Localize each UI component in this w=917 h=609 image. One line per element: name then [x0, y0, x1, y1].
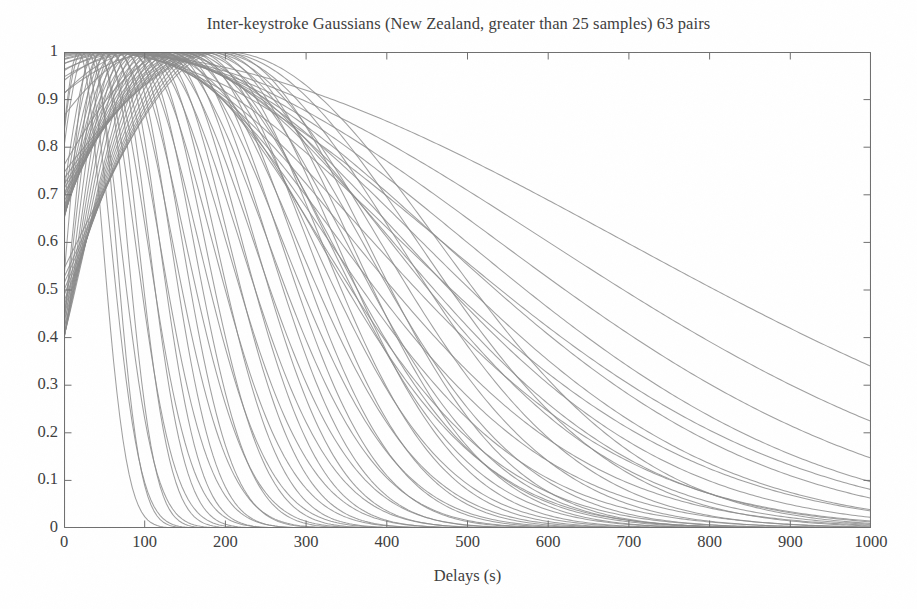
gaussian-curve [64, 52, 871, 528]
y-tick-label: 0.9 [6, 91, 58, 108]
y-tick-label: 0.1 [6, 471, 58, 488]
gaussian-curve [64, 52, 871, 528]
axes-frame [65, 53, 871, 528]
gaussian-curve [64, 52, 871, 527]
gaussian-curve [64, 52, 871, 528]
gaussian-curve [64, 52, 871, 528]
gaussian-curve [64, 52, 871, 528]
chart-title: Inter-keystroke Gaussians (New Zealand, … [0, 14, 917, 34]
y-tick-label: 0.6 [6, 233, 58, 250]
x-tick-label: 400 [347, 534, 427, 551]
gaussian-curve [64, 52, 871, 528]
gaussian-curve [64, 53, 871, 528]
gaussian-curve [64, 52, 871, 528]
gaussian-curve [64, 52, 871, 528]
gaussian-curve [64, 52, 871, 528]
x-tick-label: 100 [105, 534, 185, 551]
gaussian-curve [64, 52, 871, 517]
gaussian-curve [64, 52, 871, 526]
gaussian-curve [64, 53, 871, 528]
gaussian-curve [64, 52, 871, 528]
y-tick-label: 1 [6, 43, 58, 60]
gaussian-curve [64, 52, 871, 498]
x-tick-label: 0 [24, 534, 104, 551]
x-tick-label: 900 [750, 534, 830, 551]
gaussian-curve [64, 52, 871, 528]
y-tick-label: 0.2 [6, 424, 58, 441]
x-axis-tick-labels: 01002003004005006007008009001000 [64, 534, 871, 558]
gaussian-curve [64, 52, 871, 421]
gaussian-curve [64, 52, 871, 366]
gaussian-curve [64, 52, 871, 528]
gaussian-curve [64, 52, 871, 528]
gaussian-curve [64, 52, 871, 528]
x-tick-label: 1000 [831, 534, 911, 551]
gaussian-curve [64, 52, 871, 528]
gaussian-curve [64, 52, 871, 528]
gaussian-curve [64, 52, 871, 528]
y-tick-label: 0.5 [6, 281, 58, 298]
y-tick-label: 0.7 [6, 186, 58, 203]
gaussian-curve [64, 52, 871, 525]
gaussian-curve [64, 52, 871, 528]
gaussian-curve [64, 52, 871, 528]
figure: Inter-keystroke Gaussians (New Zealand, … [0, 0, 917, 609]
gaussian-curve [64, 52, 871, 528]
gaussian-curve [64, 52, 871, 528]
gaussian-curve [64, 52, 871, 524]
gaussian-curves-group [64, 52, 871, 528]
gaussian-curve [64, 52, 871, 528]
gaussian-curve [64, 52, 871, 528]
y-axis-tick-labels: 00.10.20.30.40.50.60.70.80.91 [0, 52, 58, 528]
gaussian-curve [64, 52, 871, 528]
x-tick-label: 600 [508, 534, 588, 551]
gaussian-curve [64, 52, 871, 528]
gaussian-curve [64, 52, 871, 528]
gaussian-curve [64, 52, 871, 528]
gaussian-curve [64, 52, 871, 528]
gaussian-curve [64, 52, 871, 528]
x-axis-title: Delays (s) [64, 566, 871, 586]
gaussian-curve [64, 52, 871, 528]
x-tick-label: 800 [670, 534, 750, 551]
curves-plot [64, 52, 871, 528]
gaussian-curve [64, 52, 871, 528]
gaussian-curve [64, 52, 871, 528]
x-tick-label: 500 [428, 534, 508, 551]
gaussian-curve [64, 52, 871, 528]
gaussian-curve [64, 52, 871, 528]
gaussian-curve [64, 52, 871, 528]
gaussian-curve [64, 52, 871, 528]
y-tick-label: 0.8 [6, 138, 58, 155]
gaussian-curve [64, 52, 871, 490]
plot-area [64, 52, 871, 528]
gaussian-curve [64, 52, 871, 528]
gaussian-curve [64, 52, 871, 528]
gaussian-curve [64, 52, 871, 528]
gaussian-curve [64, 52, 871, 528]
y-tick-label: 0.3 [6, 376, 58, 393]
gaussian-curve [64, 52, 871, 528]
x-tick-label: 200 [185, 534, 265, 551]
gaussian-curve [64, 52, 871, 524]
x-tick-label: 700 [589, 534, 669, 551]
x-tick-label: 300 [266, 534, 346, 551]
gaussian-curve [64, 52, 871, 528]
gaussian-curve [64, 52, 871, 528]
y-tick-label: 0.4 [6, 329, 58, 346]
gaussian-curve [64, 52, 871, 528]
gaussian-curve [64, 52, 871, 527]
